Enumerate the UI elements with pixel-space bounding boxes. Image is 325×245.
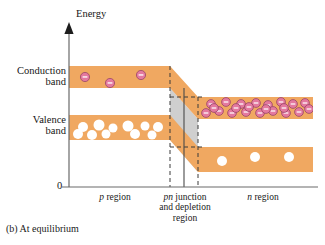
pn-junction-label-symbol: pn — [163, 192, 173, 202]
figure-caption: (b) At equilibrium — [6, 224, 79, 235]
origin-label: 0 — [57, 180, 62, 191]
valence-band-label-line1: Valence — [4, 114, 66, 125]
pn-junction-region-label: pn junction and depletion region — [147, 192, 223, 223]
conduction-band-label-line2: band — [4, 76, 66, 87]
pn-junction-label-text: junction — [173, 192, 207, 202]
conduction-band-label-line1: Conduction — [4, 65, 66, 76]
pn-junction-label-line2: and depletion — [147, 202, 223, 212]
p-region-label-text: region — [104, 192, 131, 202]
p-region-label: p region — [78, 192, 152, 202]
pn-junction-label-line1: pn junction — [147, 192, 223, 202]
n-region-label-text: region — [252, 192, 279, 202]
n-region-label: n region — [228, 192, 298, 202]
conduction-band-label: Conduction band — [4, 65, 66, 88]
y-axis-arrowhead — [64, 22, 73, 34]
valence-band-label-line2: band — [4, 125, 66, 136]
energy-band-diagram-figure: Energy Conduction band Valence band 0 p … — [0, 0, 325, 245]
y-axis-title: Energy — [76, 8, 106, 19]
valence-band-label: Valence band — [4, 114, 66, 137]
pn-junction-label-line3: region — [147, 213, 223, 223]
